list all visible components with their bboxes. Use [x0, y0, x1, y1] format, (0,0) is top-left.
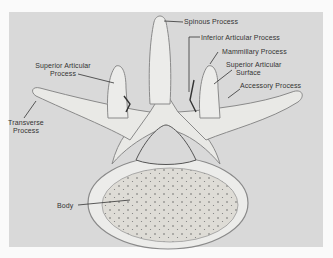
vertebra-illustration — [0, 0, 333, 258]
right-superior-articular-process — [199, 66, 220, 118]
label-accessory-process: Accessory Process — [240, 82, 301, 90]
label-body: Body — [57, 202, 73, 210]
leader-inferior-articular — [189, 37, 200, 92]
left-superior-articular-process — [107, 66, 128, 118]
label-spinous-process: Spinous Process — [184, 18, 238, 26]
leader-accessory — [228, 89, 240, 98]
leader-spinous — [164, 21, 183, 22]
leader-transverse — [24, 101, 36, 118]
label-superior-articular-surface: Superior Articular Surface — [226, 61, 282, 76]
label-superior-articular-process: Superior Articular Process — [28, 62, 98, 77]
spinous-process — [149, 16, 171, 104]
label-mammillary-process: Mammillary Process — [222, 48, 287, 56]
leader-mammillary — [210, 52, 218, 64]
left-transverse-process — [33, 88, 150, 140]
label-inferior-articular-process: Inferior Articular Process — [201, 34, 280, 42]
label-transverse-process: Transverse Process — [8, 119, 44, 134]
